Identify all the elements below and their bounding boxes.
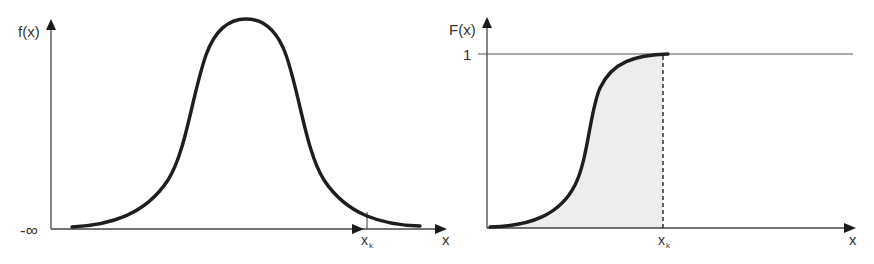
x-axis-label: x [849,231,857,248]
xk-subscript: k [369,241,374,250]
density-chart: f(x) -∞ x k x [18,19,450,250]
x-min-label: -∞ [20,221,38,240]
xk-label: x [361,232,368,248]
xk-label: x [658,232,665,248]
y-axis-label: F(x) [449,21,476,38]
xk-subscript: k [666,241,671,250]
y-axis-arrow-icon [482,17,492,28]
x-axis-label: x [442,231,450,248]
diagram-canvas: f(x) -∞ x k x F(x) 1 x k x [0,0,874,264]
cdf-shaded-area [490,54,663,228]
y-tick-1-label: 1 [463,46,471,63]
cdf-chart: F(x) 1 x k x [449,17,857,250]
density-curve [72,19,420,227]
y-axis-arrow-icon [46,19,56,30]
y-axis-label: f(x) [18,23,40,40]
